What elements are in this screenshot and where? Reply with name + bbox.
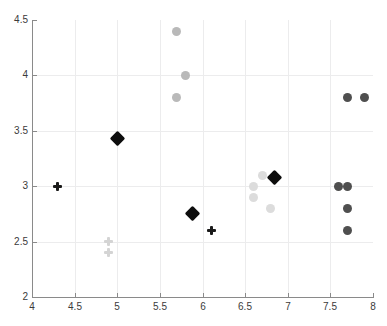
data-point-circle — [343, 226, 352, 235]
gridline-vertical — [330, 20, 331, 297]
y-tick-mark — [33, 297, 37, 298]
x-tick-label: 4.5 — [55, 301, 95, 313]
y-axis-line — [32, 20, 33, 298]
y-tick-label: 2 — [0, 291, 28, 303]
data-point-plus — [104, 237, 113, 246]
data-point-circle — [249, 193, 258, 202]
y-tick-label: 4 — [0, 69, 28, 81]
gridline-vertical — [75, 20, 76, 297]
y-tick-label: 2.5 — [0, 236, 28, 248]
x-tick-mark — [160, 293, 161, 297]
x-tick-label: 7.5 — [310, 301, 350, 313]
gridline-vertical — [160, 20, 161, 297]
data-point-circle — [343, 204, 352, 213]
data-point-circle — [343, 182, 352, 191]
y-tick-mark — [33, 242, 37, 243]
data-point-circle — [258, 171, 267, 180]
plus-bar-vertical — [56, 182, 59, 191]
x-tick-mark — [245, 293, 246, 297]
plus-bar-vertical — [107, 237, 110, 246]
y-tick-label: 3.5 — [0, 125, 28, 137]
gridline-vertical — [245, 20, 246, 297]
data-point-circle — [172, 27, 181, 36]
x-tick-label: 6 — [183, 301, 223, 313]
gridline-vertical — [117, 20, 118, 297]
x-axis-line — [32, 297, 374, 298]
x-tick-label: 8 — [353, 301, 387, 313]
data-point-circle — [266, 204, 275, 213]
y-tick-label: 3 — [0, 180, 28, 192]
data-point-circle — [181, 71, 190, 80]
x-tick-mark — [203, 293, 204, 297]
x-tick-mark — [330, 293, 331, 297]
gridline-horizontal — [32, 75, 373, 76]
y-tick-mark — [33, 131, 37, 132]
plot-area — [32, 20, 373, 297]
x-tick-mark — [373, 293, 374, 297]
y-tick-mark — [33, 20, 37, 21]
data-point-plus — [53, 182, 62, 191]
data-point-diamond — [267, 170, 283, 186]
gridline-horizontal — [32, 186, 373, 187]
x-tick-mark — [75, 293, 76, 297]
x-tick-label: 7 — [268, 301, 308, 313]
data-point-circle — [249, 182, 258, 191]
data-point-plus — [207, 226, 216, 235]
data-point-diamond — [184, 206, 200, 222]
plus-bar-vertical — [107, 248, 110, 257]
gridline-vertical — [288, 20, 289, 297]
y-tick-mark — [33, 75, 37, 76]
y-tick-label: 4.5 — [0, 14, 28, 26]
data-point-diamond — [109, 131, 125, 147]
x-tick-mark — [288, 293, 289, 297]
gridline-horizontal — [32, 242, 373, 243]
data-point-plus — [104, 248, 113, 257]
gridline-horizontal — [32, 131, 373, 132]
data-point-circle — [172, 93, 181, 102]
y-tick-mark — [33, 186, 37, 187]
x-tick-label: 5.5 — [140, 301, 180, 313]
scatter-plot-figure: 44.555.566.577.5822.533.544.5 — [0, 0, 387, 326]
plus-bar-vertical — [210, 226, 213, 235]
x-tick-label: 6.5 — [225, 301, 265, 313]
data-point-circle — [360, 93, 369, 102]
gridline-vertical — [203, 20, 204, 297]
data-point-circle — [343, 93, 352, 102]
x-tick-label: 5 — [97, 301, 137, 313]
x-tick-mark — [117, 293, 118, 297]
